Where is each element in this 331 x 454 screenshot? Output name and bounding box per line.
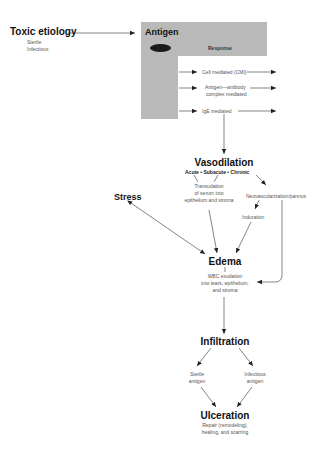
toxic-etiology-infectious: Infectious xyxy=(27,46,48,53)
vasodilation-title: Vasodilation xyxy=(184,157,264,168)
phase-chronic: Chronic xyxy=(231,169,250,175)
phase-subacute: Subacute xyxy=(203,169,226,175)
response-label: Response xyxy=(208,45,232,51)
ulceration-title: Ulceration xyxy=(194,410,256,421)
ulceration-detail-line-2: healing, and scarring xyxy=(190,429,260,436)
neovascularization-text: Neovascularization/pannus xyxy=(246,193,306,200)
infectious-antigen-line-2: antigen xyxy=(238,378,272,385)
induration-text: Induration xyxy=(242,214,264,221)
edema-detail: WBC exudation into tears, epithelium, an… xyxy=(190,273,260,294)
sterile-antigen-line-1: Sterile xyxy=(180,371,214,378)
response-cmi: Cell mediated (CMI) xyxy=(202,69,246,76)
edema-detail-line-2: into tears, epithelium, xyxy=(190,280,260,287)
transudation-line-2: of serum into xyxy=(178,190,240,197)
response-complex-mediated: complex mediated xyxy=(206,91,247,98)
separator: • xyxy=(200,169,202,175)
sterile-antigen: Sterile antigen xyxy=(180,371,214,385)
edema-title: Edema xyxy=(200,256,250,267)
toxic-etiology-title: Toxic etiology xyxy=(10,26,77,37)
separator: • xyxy=(227,169,229,175)
response-ige: IgE mediated xyxy=(202,108,231,115)
phase-acute: Acute xyxy=(185,169,199,175)
transudation-line-3: epithelium and stroma xyxy=(178,197,240,204)
ulceration-detail-line-1: Repair (remodeling), xyxy=(190,422,260,429)
toxic-etiology-sterile: Sterile xyxy=(27,39,41,46)
infectious-antigen-line-1: Infectious xyxy=(238,371,272,378)
sterile-antigen-line-2: antigen xyxy=(180,378,214,385)
response-antigen-antibody: Antigen—antibody xyxy=(205,84,246,91)
transudation-line-1: Transudation xyxy=(178,183,240,190)
vasodilation-phases: Acute • Subacute • Chronic xyxy=(185,169,249,175)
infiltration-title: Infiltration xyxy=(194,336,256,347)
antigen-ellipse-icon xyxy=(150,44,171,52)
infectious-antigen: Infectious antigen xyxy=(238,371,272,385)
edema-detail-line-1: WBC exudation xyxy=(190,273,260,280)
antigen-box-column xyxy=(141,56,178,119)
stress-title: Stress xyxy=(114,192,142,202)
edema-detail-line-3: and stroma xyxy=(190,287,260,294)
transudation-text: Transudation of serum into epithelium an… xyxy=(178,183,240,204)
antigen-title: Antigen xyxy=(145,27,179,37)
ulceration-detail: Repair (remodeling), healing, and scarri… xyxy=(190,422,260,436)
